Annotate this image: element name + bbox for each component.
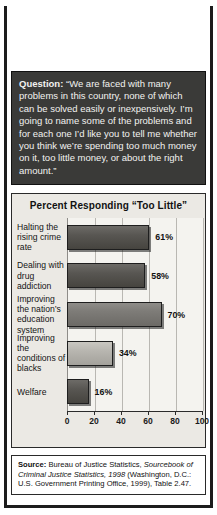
category-label-column: Halting the rising crime rateDealing wit…	[16, 218, 67, 420]
x-axis-tick-label: 0	[65, 416, 70, 426]
source-label: Source:	[18, 460, 46, 469]
category-label: Improving the conditions of blacks	[17, 333, 67, 374]
x-axis-tick	[67, 411, 68, 415]
chart-plot-area: Halting the rising crime rateDealing wit…	[16, 218, 203, 420]
x-axis-tick	[94, 411, 95, 415]
x-axis-tick-label: 20	[89, 416, 98, 426]
x-axis-tick-label: 60	[143, 416, 152, 426]
x-axis-tick	[148, 411, 149, 415]
category-label: Improving the nation’s education system	[17, 294, 67, 335]
grid-line	[203, 218, 204, 411]
chart-bar	[67, 379, 89, 404]
bar-value-label: 58%	[151, 271, 169, 281]
bar-value-label: 16%	[95, 387, 113, 397]
category-label: Welfare	[17, 387, 67, 397]
infographic-card: What Americans Think Question: “We are f…	[0, 0, 217, 515]
chart-panel: Percent Responding “Too Little” Halting …	[11, 193, 206, 448]
x-axis-line	[67, 411, 202, 412]
source-text-part1: Bureau of Justice Statistics,	[46, 460, 144, 469]
chart-bar	[67, 302, 162, 327]
source-note: Source: Bureau of Justice Statistics, So…	[11, 455, 206, 495]
bar-value-label: 70%	[168, 310, 186, 320]
category-label: Dealing with drug addiction	[17, 260, 67, 291]
chart-bar	[67, 225, 149, 250]
x-axis-tick-label: 40	[116, 416, 125, 426]
bar-value-label: 61%	[155, 232, 173, 242]
question-text: “We are faced with many problems in this…	[19, 78, 197, 176]
category-label: Halting the rising crime rate	[17, 222, 67, 253]
x-axis-tick-label: 80	[170, 416, 179, 426]
chart-bar	[67, 263, 145, 288]
chart-bar	[67, 341, 113, 366]
bar-value-label: 34%	[119, 348, 137, 358]
x-axis-tick	[121, 411, 122, 415]
chart-title: Percent Responding “Too Little”	[12, 200, 205, 211]
question-label: Question:	[19, 78, 63, 89]
question-block: Question: “We are faced with many proble…	[11, 71, 206, 185]
x-axis-tick	[202, 411, 203, 415]
x-axis-tick	[175, 411, 176, 415]
x-axis-tick-label: 100	[195, 416, 209, 426]
